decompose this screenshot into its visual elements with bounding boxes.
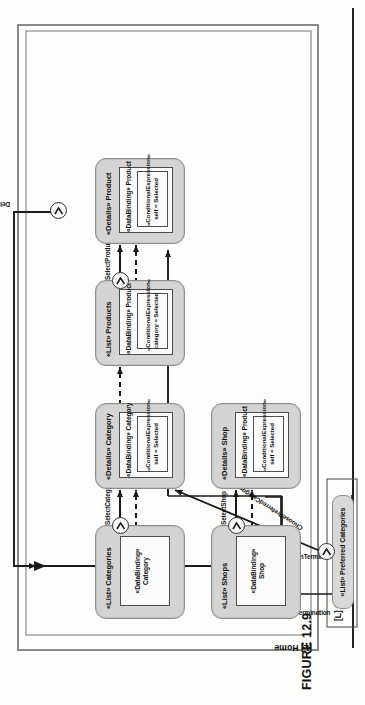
diagram-canvas: Delete Product NormalTermination Excepti… <box>0 0 365 705</box>
figure-page: Delete Product NormalTermination Excepti… <box>0 0 365 705</box>
binding-databinding-product: «DataBinding» Product <box>125 290 133 354</box>
binding-conditional-expression: «ConditionalExpression» self = Selected <box>260 417 276 471</box>
event-select-product-circle[interactable] <box>112 272 129 289</box>
label-delete-product: DeleteProduct <box>0 201 10 208</box>
view-details-product-condition-box: «ConditionalExpression» self = Selected <box>137 171 168 227</box>
view-list-preferred-categories-title: «List» Preferred Categories <box>339 496 347 608</box>
label-select-product: SelectProduct <box>104 238 111 280</box>
event-choose-preferred-category-circle[interactable] <box>318 543 335 560</box>
event-arrow-glyph <box>113 273 128 288</box>
view-details-shop-title: «Details» Shop <box>220 427 229 480</box>
event-select-shop-circle[interactable] <box>228 517 245 534</box>
view-details-product-title: «Details» Product <box>104 173 113 235</box>
binding-databinding-product: «DataBinding» Product <box>241 413 249 477</box>
binding-databinding-category: «DataBinding» Category <box>125 413 133 477</box>
view-details-shop-condition-box: «ConditionalExpression» self = Selected <box>253 416 284 472</box>
binding-conditional-expression: «ConditionalExpression» self = Selected <box>144 417 160 471</box>
view-list-products[interactable]: «List» Products «DataBinding» Product «C… <box>95 280 185 366</box>
event-arrow-glyph <box>113 518 128 533</box>
event-select-category-circle[interactable] <box>112 517 129 534</box>
view-details-category-title: «Details» Category <box>104 413 113 480</box>
binding-conditional-expression: «ConditionalExpression» category = Selec… <box>144 291 160 351</box>
view-details-shop-binding-box: «DataBinding» Product «ConditionalExpres… <box>235 412 289 478</box>
label-select-shop: SelectShop <box>220 491 227 525</box>
view-list-products-binding-box: «DataBinding» Product «ConditionalExpres… <box>119 289 173 355</box>
view-list-categories-binding-box: «DataBinding» Category <box>120 536 170 606</box>
event-arrow-glyph <box>51 203 66 218</box>
view-list-shops[interactable]: «List» Shops «DataBinding» Shop <box>211 525 301 619</box>
view-details-product-binding-box: «DataBinding» Product «ConditionalExpres… <box>119 167 173 233</box>
figure-caption: FIGURE 12.9 <box>300 613 314 690</box>
view-list-categories-title: «List» Categories <box>104 547 113 609</box>
binding-conditional-expression: «ConditionalExpression» self = Selected <box>144 172 160 226</box>
view-list-products-condition-box: «ConditionalExpression» category = Selec… <box>137 293 168 349</box>
binding-databinding-product: «DataBinding» Product <box>125 168 133 232</box>
event-arrow-glyph <box>319 544 334 559</box>
view-list-shops-title: «List» Shops <box>220 563 229 609</box>
view-details-product[interactable]: «Details» Product «DataBinding» Product … <box>95 158 185 244</box>
binding-databinding-shop: «DataBinding» Shop <box>250 537 266 605</box>
view-list-categories[interactable]: «List» Categories «DataBinding» Category <box>95 525 185 619</box>
event-arrow-glyph <box>229 518 244 533</box>
view-list-shops-binding-box: «DataBinding» Shop <box>236 536 286 606</box>
view-details-category[interactable]: «Details» Category «DataBinding» Categor… <box>95 403 185 489</box>
event-delete-product-circle[interactable] <box>50 202 67 219</box>
view-details-category-binding-box: «DataBinding» Category «ConditionalExpre… <box>119 412 173 478</box>
view-list-products-title: «List» Products <box>104 302 113 357</box>
view-details-shop[interactable]: «Details» Shop «DataBinding» Product «Co… <box>211 403 301 489</box>
view-details-category-condition-box: «ConditionalExpression» self = Selected <box>137 416 168 472</box>
binding-databinding-category: «DataBinding» Category <box>134 537 150 605</box>
